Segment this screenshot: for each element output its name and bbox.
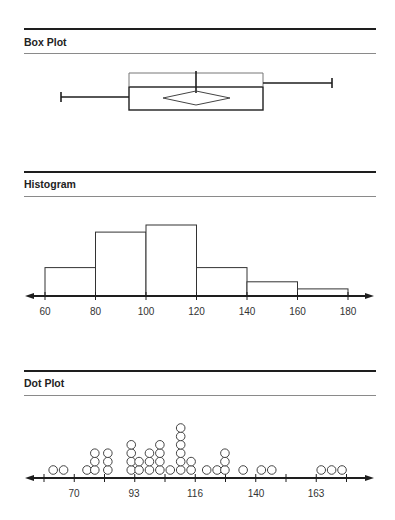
- histogram-tick-label: 140: [239, 306, 256, 317]
- histogram-tick-label: 180: [340, 306, 357, 317]
- dot-marker: [156, 457, 165, 466]
- dot-marker: [176, 424, 185, 433]
- dot-marker: [91, 449, 100, 458]
- dot-marker: [156, 449, 165, 458]
- dot-marker: [49, 466, 58, 475]
- histogram-tick-label: 120: [188, 306, 205, 317]
- histogram-tick-label: 100: [138, 306, 155, 317]
- dot-marker: [127, 449, 136, 458]
- dot-marker: [145, 449, 154, 458]
- dot-marker: [156, 466, 165, 475]
- box-mean-diamond: [163, 91, 230, 105]
- histogram-tick-label: 60: [39, 306, 51, 317]
- dot-marker: [127, 441, 136, 450]
- dot-plot-tick-label: 163: [308, 488, 325, 499]
- dot-marker: [135, 457, 144, 466]
- dot-marker: [338, 466, 347, 475]
- dot-marker: [176, 449, 185, 458]
- histogram-bar: [96, 232, 147, 296]
- histogram-tick-label: 80: [90, 306, 102, 317]
- dot-marker: [176, 441, 185, 450]
- histogram-tick-label: 160: [289, 306, 306, 317]
- histogram-axis-right-arrow: [365, 293, 374, 299]
- histogram-bar: [45, 268, 96, 296]
- dot-marker: [327, 466, 336, 475]
- histogram-bar: [247, 282, 298, 296]
- dot-plot-tick-label: 116: [187, 488, 203, 499]
- dot-marker: [221, 466, 230, 475]
- charts-canvas: 60801001201401601807093116140163: [0, 0, 395, 520]
- histogram-bar: [146, 225, 197, 296]
- dot-marker: [317, 466, 326, 475]
- dot-marker: [104, 466, 113, 475]
- dot-marker: [187, 457, 196, 466]
- dot-marker: [135, 466, 144, 475]
- dot-marker: [187, 466, 196, 475]
- histogram-axis-left-arrow: [25, 293, 34, 299]
- dot-marker: [104, 457, 113, 466]
- dot-marker: [176, 466, 185, 475]
- dot-marker: [59, 466, 68, 475]
- dot-marker: [91, 457, 100, 466]
- dot-marker: [104, 449, 113, 458]
- dot-marker: [91, 466, 100, 475]
- dot-marker: [176, 457, 185, 466]
- dot-marker: [239, 466, 248, 475]
- dot-marker: [166, 466, 175, 475]
- dot-plot-axis-left-arrow: [25, 475, 34, 481]
- dot-marker: [145, 457, 154, 466]
- dot-marker: [267, 466, 276, 475]
- dot-plot-tick-label: 93: [128, 488, 140, 499]
- dot-marker: [221, 457, 230, 466]
- dot-marker: [202, 466, 211, 475]
- dot-marker: [257, 466, 266, 475]
- dot-marker: [221, 449, 230, 458]
- dot-marker: [156, 441, 165, 450]
- dot-plot-tick-label: 140: [248, 488, 265, 499]
- dot-plot-axis-right-arrow: [365, 475, 374, 481]
- histogram-bar: [298, 289, 349, 296]
- dot-marker: [176, 432, 185, 441]
- dot-marker: [145, 466, 154, 475]
- histogram-bar: [197, 268, 248, 296]
- dot-plot-tick-label: 70: [68, 488, 80, 499]
